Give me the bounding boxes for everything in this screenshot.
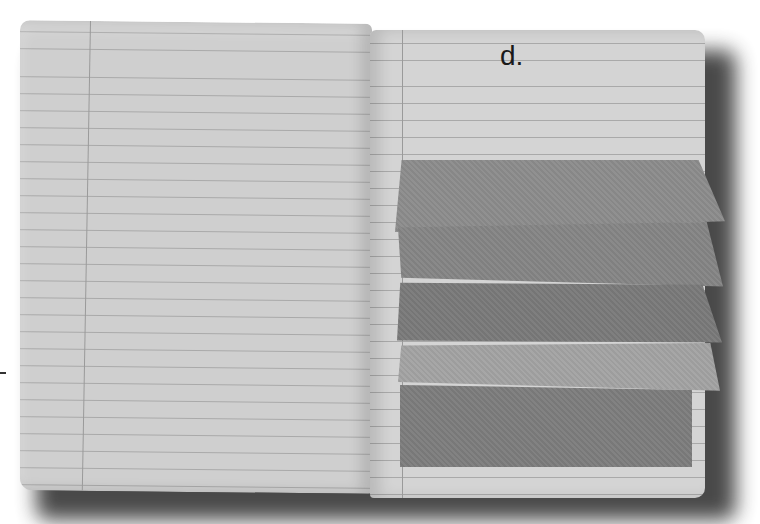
edge-mark <box>0 372 6 374</box>
notebook-scene: d. <box>0 0 760 524</box>
left-margin-line <box>82 21 91 491</box>
paper-flap-5 <box>400 385 692 467</box>
left-page <box>20 20 372 494</box>
page-heading: d. <box>500 40 523 72</box>
paper-flap-1 <box>395 160 725 232</box>
paper-flap-3 <box>397 278 722 346</box>
